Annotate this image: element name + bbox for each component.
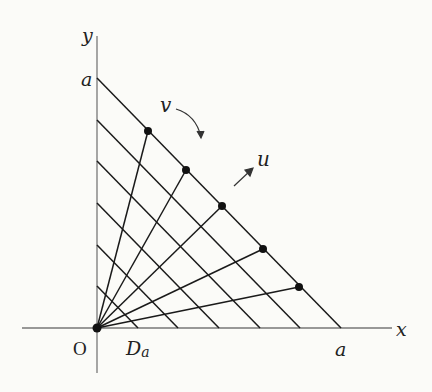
v-direction-arrow bbox=[176, 109, 204, 138]
y-axis-label: y bbox=[81, 24, 93, 46]
endpoint-dot-3 bbox=[218, 202, 226, 210]
v-ray-1 bbox=[97, 131, 148, 328]
v-ray-5 bbox=[97, 287, 299, 328]
v-ray-2 bbox=[97, 170, 186, 328]
u-level-lines bbox=[97, 78, 341, 328]
coordinate-diagram: y a v u O Da a x bbox=[0, 0, 432, 392]
region-label-main: D bbox=[125, 337, 141, 359]
origin-label: O bbox=[73, 338, 87, 359]
x-intercept-label: a bbox=[335, 338, 346, 360]
x-axis-label: x bbox=[396, 318, 407, 340]
endpoint-dot-4 bbox=[259, 245, 267, 253]
region-label-subscript: a bbox=[141, 344, 149, 360]
u-label: u bbox=[257, 147, 270, 171]
endpoint-dot-1 bbox=[144, 127, 152, 135]
endpoint-dot-2 bbox=[182, 166, 190, 174]
y-intercept-label: a bbox=[81, 68, 92, 90]
hypotenuse-u-a bbox=[97, 78, 341, 328]
origin-dot bbox=[93, 324, 102, 333]
region-label: Da bbox=[125, 337, 150, 360]
endpoint-dot-5 bbox=[295, 283, 303, 291]
u-direction-arrow bbox=[234, 168, 253, 186]
v-ray-4 bbox=[97, 249, 263, 328]
v-label: v bbox=[160, 93, 172, 117]
u-line-4 bbox=[97, 161, 260, 328]
